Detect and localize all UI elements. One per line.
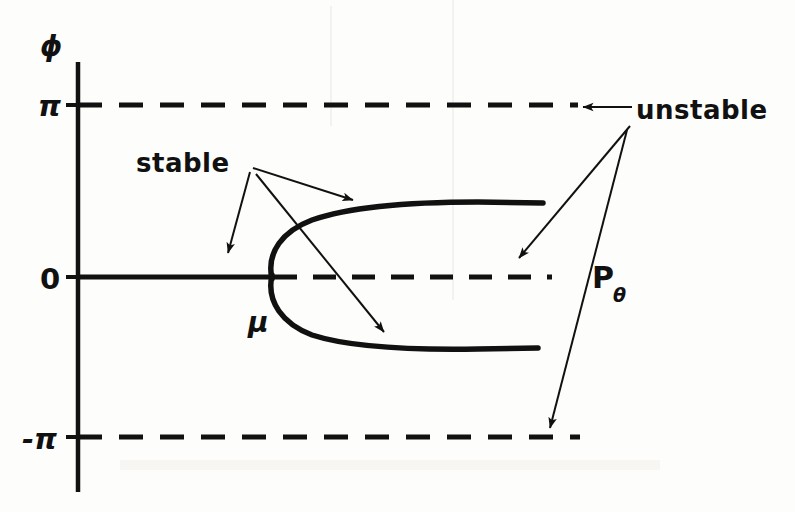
y-axis-label: ϕ (40, 30, 62, 63)
diagram-canvas: ϕ π 0 -π stable unstable μ P θ (0, 0, 795, 512)
branch-lower-stable (271, 275, 538, 349)
annotation-stable: stable (136, 148, 230, 178)
pointer-group (228, 107, 632, 428)
x-axis-label-main: P (592, 260, 614, 295)
tick-label-pi: π (38, 89, 61, 123)
x-axis-label-sub: θ (613, 284, 626, 306)
annotation-mu: μ (247, 306, 269, 339)
bifurcation-figure: ϕ π 0 -π stable unstable μ P θ (0, 0, 795, 512)
pointer-stable-to-origin-line (228, 172, 250, 253)
label-group: ϕ π 0 -π stable unstable μ P θ (22, 30, 768, 456)
pointer-unstable-to-zero-line (519, 126, 630, 258)
annotation-unstable: unstable (636, 95, 768, 125)
pointer-stable-to-upper-branch (253, 168, 353, 200)
tick-label-zero: 0 (40, 262, 60, 296)
branch-upper-stable (271, 202, 543, 279)
tick-label-minus-pi: -π (22, 422, 57, 456)
